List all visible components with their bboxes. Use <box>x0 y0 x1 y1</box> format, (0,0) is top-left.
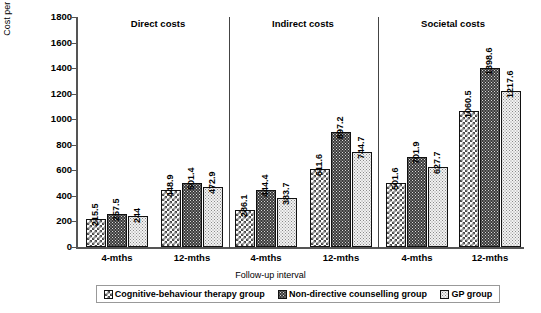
bar-value-label: 611.6 <box>314 154 324 176</box>
bar-ndc <box>480 68 500 247</box>
y-tick-mark <box>71 196 76 197</box>
y-tick-mark <box>71 221 76 222</box>
bar-gp <box>203 187 223 247</box>
bar-ndc <box>182 183 202 247</box>
legend-label-gp: GP group <box>451 289 492 299</box>
bar-cbt <box>310 169 330 247</box>
bar-cbt <box>235 210 255 247</box>
chart-legend: Cognitive-behaviour therapy group Non-di… <box>96 285 500 303</box>
bars-layer: 215.5257.5244448.9501.4472.9286.1444.438… <box>0 0 541 313</box>
bar-value-label: 1398.6 <box>484 48 494 76</box>
bar-ndc <box>107 214 127 247</box>
x-category-label: 12-mths <box>450 252 530 263</box>
bar-value-label: 444.4 <box>260 175 270 198</box>
bar-cbt <box>386 183 406 247</box>
panel-separator-2 <box>378 17 379 248</box>
y-tick-label: 600 <box>28 166 72 176</box>
y-tick-mark <box>71 170 76 171</box>
panel-title-direct: Direct costs <box>113 18 203 29</box>
legend-swatch-ndc-icon <box>278 290 287 299</box>
legend-label-ndc: Non-directive counselling group <box>289 289 427 299</box>
bar-value-label: 897.2 <box>335 117 345 140</box>
bar-value-label: 215.5 <box>90 204 100 227</box>
bar-cbt <box>459 111 479 247</box>
x-category-label: 4-mths <box>77 252 157 263</box>
y-axis-tick-labels: 180016001400120010008006004002000 <box>24 0 72 313</box>
y-tick-mark <box>71 68 76 69</box>
panel-title-societal: Societal costs <box>408 18 498 29</box>
bar-ndc <box>331 132 351 247</box>
legend-item-gp: GP group <box>440 289 492 299</box>
x-category-label: 12-mths <box>152 252 232 263</box>
bar-value-label: 627.7 <box>432 151 442 174</box>
bar-value-label: 501.6 <box>390 167 400 190</box>
y-tick-label: 0 <box>28 242 72 252</box>
y-tick-mark <box>71 119 76 120</box>
bar-value-label: 701.9 <box>411 142 421 165</box>
x-category-label: 12-mths <box>301 252 381 263</box>
y-tick-label: 1000 <box>28 114 72 124</box>
bar-value-label: 1060.5 <box>463 91 473 119</box>
x-axis-line <box>76 247 524 249</box>
y-tick-label: 200 <box>28 217 72 227</box>
y-tick-mark <box>71 247 76 248</box>
legend-item-ndc: Non-directive counselling group <box>278 289 427 299</box>
bar-ndc <box>256 190 276 247</box>
y-tick-label: 1800 <box>28 12 72 22</box>
x-category-label: 4-mths <box>226 252 306 263</box>
bar-gp <box>352 152 372 247</box>
y-tick-label: 1200 <box>28 89 72 99</box>
bar-value-label: 472.9 <box>207 171 217 194</box>
x-category-label: 4-mths <box>377 252 457 263</box>
y-tick-mark <box>71 145 76 146</box>
x-axis-title: Follow-up interval <box>0 270 541 280</box>
bar-value-label: 383.7 <box>281 182 291 205</box>
bar-gp <box>428 167 448 247</box>
y-tick-label: 800 <box>28 140 72 150</box>
bar-gp <box>277 198 297 247</box>
y-tick-label: 400 <box>28 191 72 201</box>
bar-value-label: 257.5 <box>111 199 121 222</box>
y-axis-title: Cost per patient (£s) <box>2 0 12 60</box>
y-tick-mark <box>71 43 76 44</box>
bar-chart: Cost per patient (£s) 180016001400120010… <box>0 0 541 313</box>
legend-swatch-cbt-icon <box>104 290 113 299</box>
bar-value-label: 448.9 <box>165 174 175 197</box>
y-tick-label: 1600 <box>28 38 72 48</box>
legend-swatch-gp-icon <box>440 290 449 299</box>
bar-ndc <box>407 157 427 247</box>
y-tick-label: 1400 <box>28 63 72 73</box>
bar-value-label: 244 <box>132 208 142 223</box>
bar-gp <box>501 91 521 247</box>
bar-cbt <box>86 219 106 247</box>
bar-value-label: 744.7 <box>356 136 366 159</box>
bar-value-label: 501.4 <box>186 167 196 190</box>
bar-gp <box>128 216 148 247</box>
bar-cbt <box>161 190 181 247</box>
panel-title-indirect: Indirect costs <box>258 18 348 29</box>
legend-label-cbt: Cognitive-behaviour therapy group <box>115 289 265 299</box>
y-axis-line <box>76 17 78 248</box>
bar-value-label: 1217.6 <box>505 71 515 99</box>
bar-value-label: 286.1 <box>239 195 249 218</box>
legend-item-cbt: Cognitive-behaviour therapy group <box>104 289 265 299</box>
y-tick-mark <box>71 17 76 18</box>
y-tick-mark <box>71 94 76 95</box>
panel-separator-1 <box>229 17 230 248</box>
